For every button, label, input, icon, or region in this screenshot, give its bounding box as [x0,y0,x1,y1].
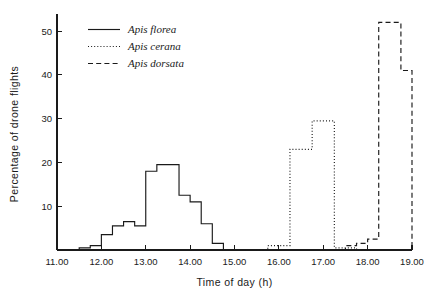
series-group [57,22,412,250]
x-tick-label: 14.00 [178,256,202,267]
y-tick-group: 1020304050 [41,26,62,212]
y-axis-title: Percentage of drone flights [8,66,20,202]
x-tick-label: 12.00 [89,256,113,267]
chart-figure: 1020304050 Percentage of drone flights 1… [0,0,430,304]
y-tick-label: 30 [41,113,52,124]
series-apis-cerana [257,121,368,250]
x-tick-label: 11.00 [45,256,68,267]
y-tick-label: 20 [41,157,52,168]
x-tick-label: 15.00 [223,256,247,267]
y-tick-label: 10 [41,201,52,212]
legend-label: Apis cerana [127,40,181,52]
series-apis-dorsata [334,22,412,250]
x-tick-label: 19.00 [400,256,424,267]
x-tick-label: 16.00 [267,256,291,267]
legend-label: Apis florea [127,23,177,35]
x-tick-label: 17.00 [311,256,335,267]
series-apis-florea [57,165,246,250]
y-axis-group: 1020304050 Percentage of drone flights [8,14,62,250]
x-axis-group: 11.0012.0013.0014.0015.0016.0017.0018.00… [45,245,423,288]
y-tick-label: 50 [41,26,52,37]
x-tick-label: 18.00 [356,256,380,267]
chart-legend: Apis floreaApis ceranaApis dorsata [88,23,184,69]
y-tick-label: 40 [41,69,52,80]
x-tick-label: 13.00 [134,256,158,267]
x-axis-title: Time of day (h) [196,276,272,288]
x-tick-group: 11.0012.0013.0014.0015.0016.0017.0018.00… [45,245,423,267]
drone-flight-step-chart: 1020304050 Percentage of drone flights 1… [0,0,430,304]
legend-label: Apis dorsata [127,57,184,69]
